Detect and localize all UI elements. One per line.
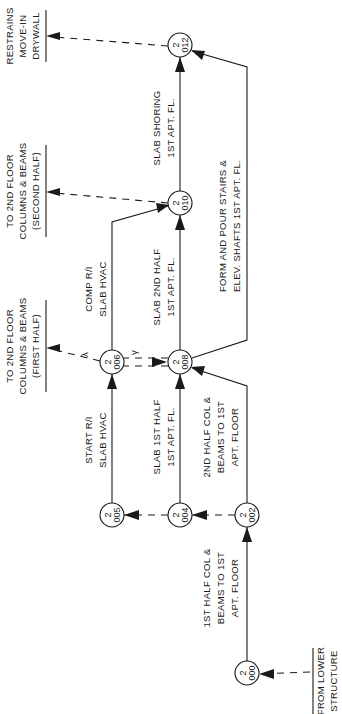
arrow-head-006 [107,374,117,389]
svg-text:SLAB 2ND HALF: SLAB 2ND HALF [151,249,162,326]
svg-text:006: 006 [112,354,122,369]
svg-text:008: 008 [180,354,190,369]
svg-text:TO 2ND FLOOR: TO 2ND FLOOR [4,309,15,383]
svg-text:DRYWALL: DRYWALL [30,12,41,60]
label-restrains: RESTRAINS MOVE-IN DRYWALL [4,7,41,64]
svg-text:STRUCTURE: STRUCTURE [328,650,339,711]
activity-label-008-012: FORM AND POUR STAIRS & ELEV. SHAFTS 1ST … [217,160,242,292]
arrow-head-010 [156,203,169,213]
svg-text:005: 005 [112,507,122,522]
label-first-half: TO 2ND FLOOR COLUMNS & BEAMS (FIRST HALF… [4,298,41,395]
arrow-head-004 [192,510,207,520]
arrow-head-012 [175,57,185,72]
label-second-half: TO 2ND FLOOR COLUMNS & BEAMS (SECOND HAL… [4,143,41,240]
arrow-head-010-b [175,215,185,230]
network-diagram: RESTRAINS MOVE-IN DRYWALL TO 2ND FLOOR C… [0,0,342,714]
dashed-006-first [55,350,100,361]
svg-text:TO 2ND FLOOR: TO 2ND FLOOR [4,154,15,228]
svg-text:002: 002 [247,507,257,522]
svg-text:BEAMS TO 1ST: BEAMS TO 1ST [215,401,226,473]
svg-text:004: 004 [180,507,190,522]
svg-text:SLAB HVAC: SLAB HVAC [97,261,108,316]
svg-text:(FIRST HALF): (FIRST HALF) [30,314,41,378]
node-010: 2 010 [168,191,192,215]
svg-text:1ST APT. FL.: 1ST APT. FL. [165,407,176,466]
svg-text:SLAB HVAC: SLAB HVAC [97,412,108,467]
svg-text:010: 010 [180,195,190,210]
node-012: 2 012 [168,33,192,57]
dashed-012-restrains [55,37,168,46]
arrow-head-012-b [191,50,205,60]
svg-text:ELEV. SHAFTS 1ST APT. FL.: ELEV. SHAFTS 1ST APT. FL. [231,160,242,292]
svg-text:FORM AND POUR STAIRS &: FORM AND POUR STAIRS & [217,160,228,292]
arrow-head-002 [242,527,252,542]
svg-text:FROM LOWER: FROM LOWER [315,647,326,714]
activity-label-010-012: SLAB SHORING 1ST APT. FL. [151,91,176,166]
svg-text:START R/I: START R/I [83,416,94,464]
svg-text:RESTRAINS: RESTRAINS [4,7,15,64]
svg-text:000: 000 [247,665,257,680]
activity-label-004-008: SLAB 1ST HALF 1ST APT. FL. [151,399,176,474]
svg-text:SLAB SHORING: SLAB SHORING [151,91,162,166]
node-008: 2 008 [168,350,192,374]
node-006: 2 006 [100,350,124,374]
arrow-head-first-half [46,344,60,352]
lag-mark-lambda: λ [79,352,90,357]
node-004: 2 004 [168,503,192,527]
svg-text:SLAB 1ST HALF: SLAB 1ST HALF [151,399,162,474]
activity-label-005-006: START R/I SLAB HVAC [83,412,108,467]
arrow-head-008-b [191,366,205,376]
activity-label-006-010: COMP R/I SLAB HVAC [83,261,108,316]
node-005: 2 005 [100,503,124,527]
svg-text:1ST HALF COL &: 1ST HALF COL & [201,548,212,628]
svg-text:COLUMNS & BEAMS: COLUMNS & BEAMS [17,298,28,395]
node-002: 2 002 [235,503,259,527]
svg-text:COLUMNS & BEAMS: COLUMNS & BEAMS [17,143,28,240]
activity-label-002-008: 2ND HALF COL & BEAMS TO 1ST APT. FLOOR [201,396,240,477]
node-000: 2 000 [235,661,259,685]
svg-text:COMP R/I: COMP R/I [83,266,94,312]
dashed-010-second [55,193,168,203]
label-from-lower: FROM LOWER STRUCTURE [315,647,339,714]
svg-text:APT. FLOOR: APT. FLOOR [229,408,240,466]
arrow-head-008-c [175,374,185,389]
svg-text:BEAMS TO 1ST: BEAMS TO 1ST [215,552,226,624]
svg-text:1ST APT. FL.: 1ST APT. FL. [165,257,176,316]
svg-text:1ST APT. FL.: 1ST APT. FL. [165,98,176,157]
svg-text:APT. FLOOR: APT. FLOOR [229,559,240,617]
activity-label-000-002: 1ST HALF COL & BEAMS TO 1ST APT. FLOOR [201,548,240,628]
svg-text:012: 012 [180,37,190,52]
arrow-head-second-half [46,188,60,196]
arrow-head-005 [124,510,139,520]
arrow-head-restrains [46,32,60,40]
svg-text:MOVE-IN: MOVE-IN [17,15,28,58]
activity-label-008-010: SLAB 2ND HALF 1ST APT. FL. [151,249,176,326]
svg-text:(SECOND HALF): (SECOND HALF) [30,152,41,230]
arrow-head-000 [259,669,274,679]
svg-text:2ND HALF COL &: 2ND HALF COL & [201,396,212,477]
lag-mark-gamma: γ [128,350,139,355]
